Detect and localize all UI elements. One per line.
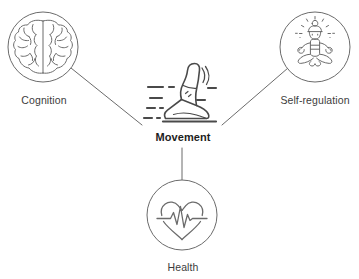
diagram-canvas: Cognition Self-regulation Movement Healt…: [0, 0, 359, 279]
node-label-health: Health: [139, 262, 227, 273]
shoe-laces: [186, 92, 192, 97]
node-label-self-regulation: Self-regulation: [271, 95, 359, 106]
node-cognition[interactable]: [8, 12, 78, 82]
connector-group: [71, 68, 288, 181]
node-self-regulation[interactable]: [280, 12, 350, 82]
running-shoe-icon[interactable]: [144, 64, 216, 122]
node-health[interactable]: [147, 180, 217, 250]
shoe-cuff: [183, 86, 196, 89]
shoe-motion-swoosh: [202, 67, 209, 85]
node-label-cognition: Cognition: [0, 95, 88, 106]
node-label-movement: Movement: [139, 132, 227, 143]
self-regulation-circle-outline: [280, 12, 350, 82]
shoe-sole-detail: [174, 113, 207, 118]
shoe-sole: [165, 100, 209, 119]
